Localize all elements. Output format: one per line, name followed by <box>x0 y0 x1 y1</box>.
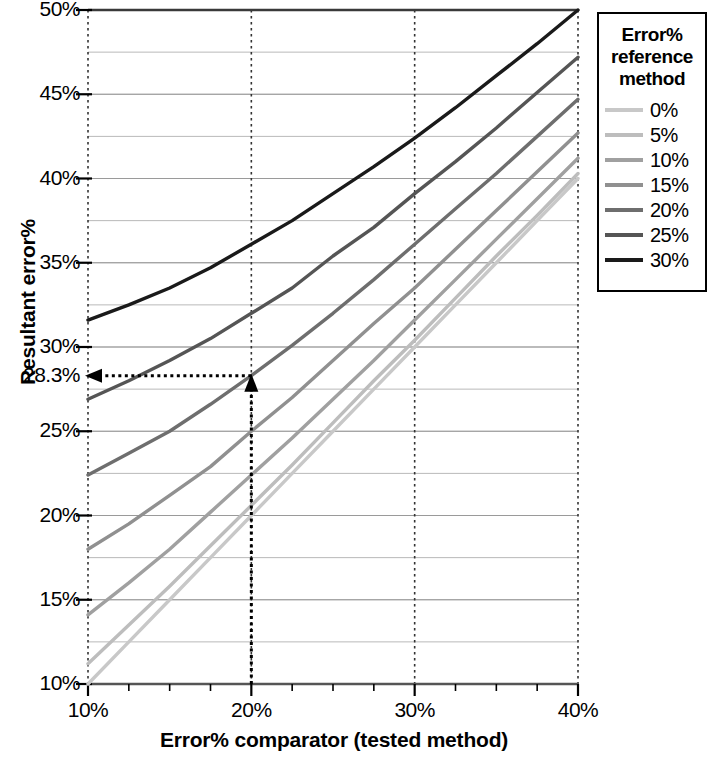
x-tick-label: 40% <box>538 698 618 722</box>
y-tick-label: 10% <box>0 671 80 695</box>
legend-item[interactable]: 25% <box>605 223 705 248</box>
gridlines-major <box>88 94 578 600</box>
legend: Error% reference method 0%5%10%15%20%25%… <box>597 12 707 292</box>
x-tick-label: 20% <box>211 698 291 722</box>
legend-swatch-icon <box>605 258 643 262</box>
y-axis-tick-labels: 10%15%20%25%28.3%30%35%40%45%50% <box>0 0 80 758</box>
y-tick-label: 20% <box>0 503 80 527</box>
y-tick-label: 25% <box>0 418 80 442</box>
y-tick-label: 40% <box>0 166 80 190</box>
y-tick-label: 45% <box>0 81 80 105</box>
legend-swatch-icon <box>605 208 643 212</box>
legend-item-label: 0% <box>650 100 678 120</box>
legend-item-label: 20% <box>650 200 689 220</box>
x-axis-title: Error% comparator (tested method) <box>88 728 580 752</box>
legend-swatch-icon <box>605 133 643 137</box>
legend-item[interactable]: 0% <box>605 98 705 123</box>
y-axis-title: Resultant error% <box>16 182 40 422</box>
legend-item-label: 10% <box>650 150 689 170</box>
legend-item[interactable]: 30% <box>605 248 705 273</box>
axis-ticks <box>76 10 578 696</box>
legend-item-label: 15% <box>650 175 689 195</box>
legend-title-line-1: Error% <box>603 24 701 46</box>
legend-items: 0%5%10%15%20%25%30% <box>599 98 705 273</box>
legend-item-label: 25% <box>650 225 689 245</box>
legend-item[interactable]: 5% <box>605 123 705 148</box>
legend-swatch-icon <box>605 183 643 187</box>
legend-item-label: 5% <box>650 125 678 145</box>
legend-item[interactable]: 10% <box>605 148 705 173</box>
legend-item[interactable]: 15% <box>605 173 705 198</box>
annotation-arrowhead-up <box>244 374 258 392</box>
legend-swatch-icon <box>605 233 643 237</box>
y-tick-label: 15% <box>0 587 80 611</box>
y-tick-label: 30% <box>0 334 80 358</box>
legend-swatch-icon <box>605 158 643 162</box>
legend-title-line-3: method <box>603 68 701 90</box>
x-tick-label: 30% <box>375 698 455 722</box>
legend-title: Error% reference method <box>599 24 705 90</box>
x-tick-label: 10% <box>48 698 128 722</box>
y-tick-label: 35% <box>0 250 80 274</box>
legend-swatch-icon <box>605 108 643 112</box>
curve-25pct <box>88 57 578 399</box>
curve-5pct <box>88 173 578 663</box>
legend-item-label: 30% <box>650 250 689 270</box>
chart-root: 10%15%20%25%28.3%30%35%40%45%50% 10%20%3… <box>0 0 714 758</box>
y-tick-label: 50% <box>0 0 80 21</box>
y-tick-label: 28.3% <box>0 363 80 387</box>
legend-item[interactable]: 20% <box>605 198 705 223</box>
legend-title-line-2: reference <box>603 46 701 68</box>
curve-20pct <box>88 99 578 475</box>
curve-10pct <box>88 158 578 615</box>
